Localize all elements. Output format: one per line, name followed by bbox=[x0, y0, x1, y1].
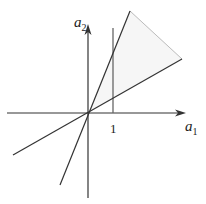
cone-diagram: a2 1 a1 bbox=[0, 0, 206, 204]
x-axis-label: a1 bbox=[185, 118, 198, 137]
steep-ray-line bbox=[60, 11, 130, 185]
y-axis-label: a2 bbox=[74, 14, 87, 33]
shallow-ray-line bbox=[13, 59, 182, 155]
tick-label-one: 1 bbox=[110, 121, 117, 136]
shaded-cone-region bbox=[88, 11, 182, 113]
